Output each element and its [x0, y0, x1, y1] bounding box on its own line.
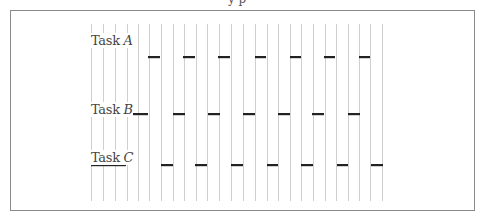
task-a-execution-bar: [148, 56, 160, 58]
task-b-execution-bar: [208, 113, 220, 115]
task-c-execution-bar: [371, 164, 383, 166]
timeline-diagram: [0, 0, 481, 217]
task-b-execution-bar: [278, 113, 290, 115]
task-c-execution-bar: [337, 164, 348, 166]
task-c-label: Task C: [91, 150, 133, 165]
task-a-execution-bar: [255, 56, 266, 58]
task-c-execution-bar: [195, 164, 207, 166]
task-a-execution-bar: [324, 56, 335, 58]
task-a-execution-bar: [218, 56, 230, 58]
task-b-letter: B: [124, 102, 133, 117]
task-a-execution-bar: [290, 56, 301, 58]
task-a-label: Task A: [91, 33, 133, 48]
task-c-letter: C: [124, 150, 134, 165]
task-b-execution-bar: [312, 113, 324, 115]
task-a-execution-bar: [183, 56, 195, 58]
task-a-execution-bar: [359, 56, 370, 58]
task-b-label: Task B: [91, 102, 133, 117]
task-b-execution-bar: [243, 113, 255, 115]
task-a-letter: A: [124, 33, 133, 48]
task-b-word: Task: [91, 102, 120, 117]
task-a-word: Task: [91, 33, 120, 48]
task-c-word: Task: [91, 150, 120, 165]
task-b-execution-bar: [173, 113, 185, 115]
task-c-execution-bar: [161, 164, 173, 166]
task-c-execution-bar: [231, 164, 243, 166]
task-c-execution-bar: [267, 164, 278, 166]
task-b-execution-bar: [348, 113, 360, 115]
task-c-execution-bar: [301, 164, 313, 166]
